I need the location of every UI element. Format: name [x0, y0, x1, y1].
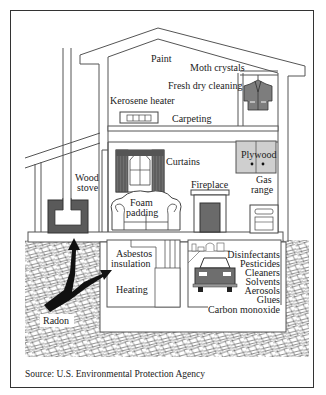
closet	[238, 71, 278, 126]
fireplace-icon	[191, 190, 229, 232]
house-diagram: Paint Moth crystals Fresh dry cleaning K…	[0, 0, 326, 395]
label-heating: Heating	[116, 284, 148, 295]
wood-stove-icon	[48, 198, 88, 233]
label-padding: padding	[126, 207, 158, 218]
label-plywood: Plywood	[241, 149, 277, 160]
label-paint: Paint	[151, 53, 172, 64]
upper-floor	[108, 126, 278, 131]
label-fresh-dry-cleaning: Fresh dry cleaning	[168, 80, 242, 91]
main-floor-wall	[102, 150, 108, 232]
source-caption: Source: U.S. Environmental Protection Ag…	[25, 369, 205, 379]
label-curtains: Curtains	[166, 156, 200, 167]
label-carpeting: Carpeting	[172, 113, 211, 124]
gas-range-icon	[250, 205, 278, 233]
label-range: range	[251, 184, 274, 195]
label-radon: Radon	[43, 315, 69, 326]
label-kerosene-heater: Kerosene heater	[110, 95, 175, 106]
label-carbon-monoxide: Carbon monoxide	[208, 304, 280, 315]
label-moth-crystals: Moth crystals	[190, 62, 245, 73]
kerosene-heater-icon	[120, 112, 158, 123]
label-fireplace: Fireplace	[191, 179, 229, 190]
curtained-window-icon	[116, 150, 164, 192]
chimney-pipe	[63, 48, 71, 210]
label-stove: stove	[77, 182, 99, 193]
label-insulation: insulation	[111, 258, 150, 269]
